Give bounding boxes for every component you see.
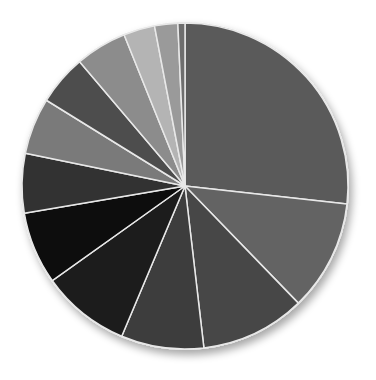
pie-slices: [21, 22, 349, 350]
pie-slice-1: [185, 23, 348, 204]
pie-chart: [0, 0, 376, 380]
